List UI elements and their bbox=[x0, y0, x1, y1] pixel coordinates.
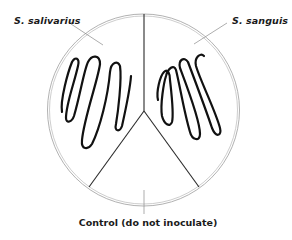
label-s-salivarius: S. salivarius bbox=[14, 16, 81, 26]
label-s-sanguis: S. sanguis bbox=[232, 16, 288, 26]
label-control: Control (do not inoculate) bbox=[0, 218, 292, 228]
streak-sanguis bbox=[157, 55, 220, 139]
streak-salivarius bbox=[62, 57, 131, 149]
petri-plate-diagram bbox=[0, 0, 292, 240]
